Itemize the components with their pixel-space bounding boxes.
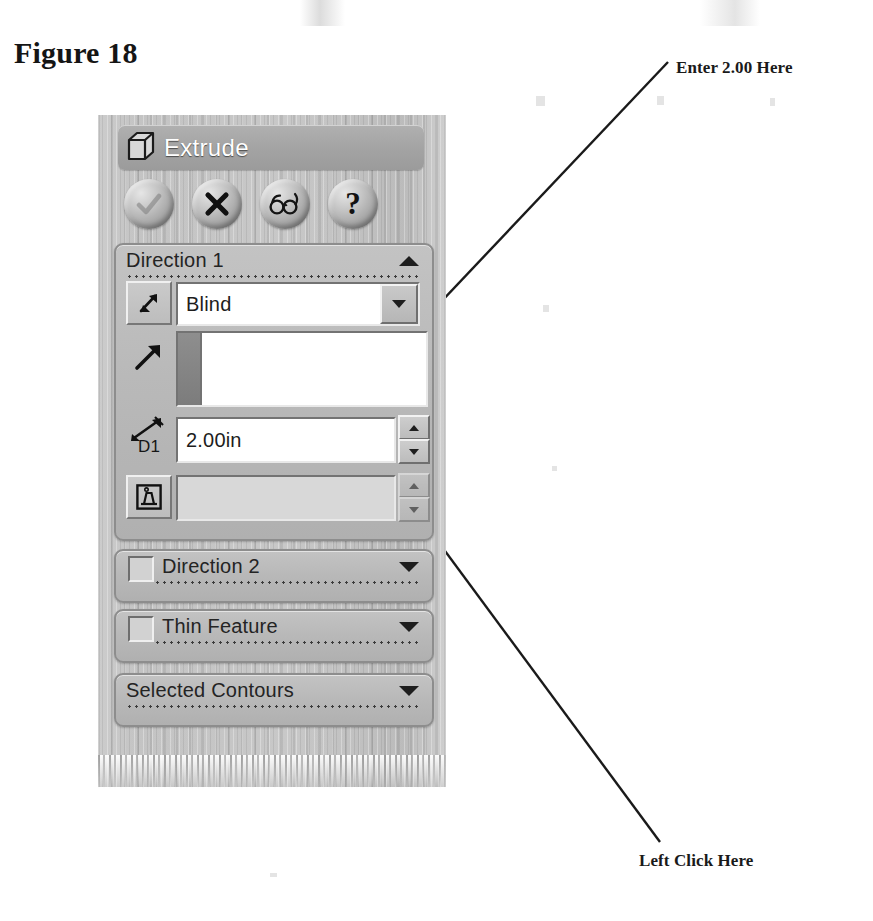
section-thin-feature-title: Thin Feature [162,615,278,638]
depth-value-field[interactable]: 2.00in [176,417,396,463]
section-thin-feature[interactable]: Thin Feature [114,609,434,663]
help-button[interactable]: ? [328,179,378,229]
scan-fleck [270,873,277,877]
depth-dimension-label: D1 [138,437,160,457]
spinner-up-icon[interactable] [398,473,430,498]
scan-artifact-top [0,0,873,26]
extrude-cube-icon [127,131,155,165]
cancel-button[interactable] [192,179,242,229]
scan-fleck [552,466,557,471]
depth-spinner [398,415,426,461]
check-icon [136,192,162,216]
section-direction-1: Direction 1 Blind [114,243,434,541]
ok-button[interactable] [124,179,174,229]
row-direction-reference [116,329,432,409]
direction-arrow-icon [130,339,166,375]
section-thin-feature-header[interactable]: Thin Feature [116,611,432,645]
property-manager-title: Extrude [164,134,249,162]
annotation-left-click: Left Click Here [639,851,753,871]
thin-feature-checkbox[interactable] [128,616,154,642]
row-draft-angle [116,473,432,525]
figure-caption: Figure 18 [14,36,138,70]
spinner-down-icon[interactable] [398,439,430,464]
section-direction-2[interactable]: Direction 2 [114,549,434,603]
preview-button[interactable] [260,179,310,229]
section-direction-1-header[interactable]: Direction 1 [116,245,432,279]
flip-direction-button[interactable] [126,281,172,325]
draft-angle-icon [136,484,162,510]
section-selected-contours[interactable]: Selected Contours [114,673,434,727]
section-direction-2-header[interactable]: Direction 2 [116,551,432,585]
flip-direction-icon [137,291,161,315]
spinner-up-icon[interactable] [398,415,430,440]
chevron-down-icon[interactable] [398,560,420,578]
eyeglasses-icon [268,191,302,217]
section-separator-dots [126,705,420,708]
direction-2-checkbox[interactable] [128,556,154,582]
scan-fleck [657,96,664,105]
depth-value: 2.00in [178,429,242,452]
question-mark-icon: ? [345,188,361,219]
selection-box-area[interactable] [200,333,426,405]
scan-fleck [770,98,775,106]
chevron-down-icon[interactable] [398,684,420,702]
section-selected-contours-header[interactable]: Selected Contours [116,675,432,709]
draft-angle-field[interactable] [176,475,396,521]
end-condition-value: Blind [178,293,231,316]
draft-angle-spinner [398,473,426,519]
chevron-down-icon[interactable] [380,284,418,324]
property-manager-button-row: ? [124,177,424,233]
section-selected-contours-title: Selected Contours [126,679,294,702]
draft-angle-button[interactable] [126,475,172,519]
chevron-up-icon[interactable] [398,254,420,272]
extrude-property-manager: Extrude [98,115,446,787]
section-separator-dots [154,641,420,644]
scan-fleck [536,96,545,106]
section-direction-1-title: Direction 1 [126,249,224,272]
section-separator-dots [126,275,420,278]
direction-reference-selection-box[interactable] [176,331,428,407]
x-icon [204,191,230,217]
spinner-down-icon[interactable] [398,497,430,522]
row-depth: D1 2.00in [116,415,432,467]
end-condition-combo[interactable]: Blind [176,282,420,326]
chevron-down-icon[interactable] [398,620,420,638]
section-direction-2-title: Direction 2 [162,555,260,578]
section-separator-dots [154,581,420,584]
annotation-enter-value: Enter 2.00 Here [676,58,793,78]
row-end-condition: Blind [116,281,432,325]
selection-box-strip [178,333,200,405]
property-manager-titlebar: Extrude [118,125,424,170]
scan-fleck [543,305,549,312]
